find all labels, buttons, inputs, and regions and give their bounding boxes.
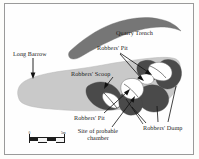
label-site-of-probable-chamber: Site of probable chamber [70,128,126,142]
label-quarry-trench: Quarry Trench [116,30,153,37]
label-robbers-pit-upper: Robbers' Pit [97,45,128,52]
label-robbers-scoop: Robbers' Scoop [71,71,110,78]
site-plan-figure: Quarry Trench Long Barrow Robbers' Pit R… [0,0,199,159]
robbers-pit-central-shape [121,78,144,99]
label-robbers-pit-lower: Robbers' Pit [74,115,105,122]
scale-bar: 0 5m [29,134,65,143]
label-robbers-dump: Robbers' Dump [143,125,182,132]
scale-bar-end-label: 5m [61,131,66,135]
quarry-trench-shape [69,18,182,59]
label-long-barrow: Long Barrow [13,51,47,58]
scale-bar-start-label: 0 [29,131,31,135]
